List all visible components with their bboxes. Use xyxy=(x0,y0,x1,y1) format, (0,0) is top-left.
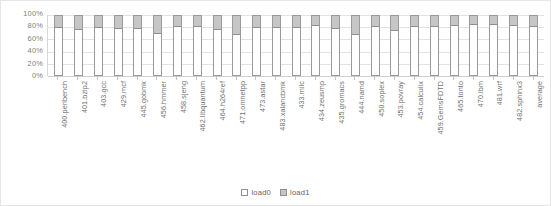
stacked-bar[interactable] xyxy=(292,15,301,76)
legend-swatch-load1 xyxy=(280,189,287,196)
stacked-bar[interactable] xyxy=(390,15,399,76)
stacked-bar[interactable] xyxy=(114,15,123,76)
stacked-bar[interactable] xyxy=(351,15,360,76)
x-tick-mark xyxy=(236,76,237,80)
bar-slot xyxy=(49,15,69,76)
stacked-bar[interactable] xyxy=(450,15,459,76)
legend-item[interactable]: load1 xyxy=(280,188,310,197)
bar-slot xyxy=(108,15,128,76)
x-label-slot: 433.milc xyxy=(286,81,306,163)
stacked-bar[interactable] xyxy=(529,15,538,76)
x-tick-mark xyxy=(434,76,435,80)
bar-segment-load0 xyxy=(312,26,319,75)
bar-segment-load1 xyxy=(451,16,458,26)
x-tick-mark xyxy=(77,76,78,80)
x-tick-mark xyxy=(354,76,355,80)
bar-segment-load0 xyxy=(154,34,161,75)
stacked-bar[interactable] xyxy=(94,15,103,76)
bar-slot xyxy=(187,15,207,76)
bar-slot xyxy=(128,15,148,76)
stacked-bar[interactable] xyxy=(74,15,83,76)
stacked-bar[interactable] xyxy=(469,15,478,76)
bar-segment-load1 xyxy=(411,16,418,27)
bar-segment-load0 xyxy=(115,29,122,75)
bar-segment-load0 xyxy=(391,31,398,75)
x-label-slot: 482.sphinx3 xyxy=(503,81,523,163)
bar-slot xyxy=(168,15,188,76)
x-tick-mark xyxy=(255,76,256,80)
stacked-bar[interactable] xyxy=(371,15,380,76)
stacked-bar[interactable] xyxy=(509,15,518,76)
bar-slot xyxy=(464,15,484,76)
x-label-slot: 470.lbm xyxy=(464,81,484,163)
x-label-slot: 435.gromacs xyxy=(325,81,345,163)
bar-segment-load0 xyxy=(490,25,497,75)
stacked-bar[interactable] xyxy=(430,15,439,76)
x-label-slot: 459.GemsFDTD xyxy=(424,81,444,163)
y-axis: 0%20%40%60%80%100% xyxy=(5,14,43,76)
x-tick-mark xyxy=(57,76,58,80)
stacked-bar[interactable] xyxy=(331,15,340,76)
stacked-bar[interactable] xyxy=(489,15,498,76)
legend-swatch-load0 xyxy=(241,189,248,196)
bar-segment-load0 xyxy=(253,28,260,75)
bar-segment-load1 xyxy=(510,16,517,26)
bar-segment-load0 xyxy=(451,26,458,75)
bar-segment-load1 xyxy=(273,16,280,28)
x-label-slot: 471.omnetpp xyxy=(226,81,246,163)
x-tick-label: average xyxy=(536,81,544,108)
x-tick-mark xyxy=(335,76,336,80)
bar-segment-load1 xyxy=(372,16,379,27)
x-tick-mark xyxy=(394,76,395,80)
bar-slot xyxy=(504,15,524,76)
stacked-bar[interactable] xyxy=(232,15,241,76)
x-label-slot: 465.tonto xyxy=(444,81,464,163)
bar-segment-load1 xyxy=(115,16,122,29)
x-tick-mark xyxy=(315,76,316,80)
x-label-slot: 453.povray xyxy=(385,81,405,163)
stacked-bar[interactable] xyxy=(410,15,419,76)
bar-segment-load0 xyxy=(332,29,339,75)
stacked-bar[interactable] xyxy=(54,15,63,76)
bar-slot xyxy=(326,15,346,76)
x-label-slot: 400.perlbench xyxy=(48,81,68,163)
stacked-bar[interactable] xyxy=(272,15,281,76)
stacked-bar[interactable] xyxy=(193,15,202,76)
bar-segment-load0 xyxy=(233,35,240,75)
bar-segment-load1 xyxy=(233,16,240,35)
y-tick-label: 0% xyxy=(32,72,43,80)
x-label-slot: 481.wrf xyxy=(484,81,504,163)
bar-slot xyxy=(89,15,109,76)
bar-segment-load1 xyxy=(154,16,161,34)
x-label-slot: 454.calculix xyxy=(404,81,424,163)
x-label-slot: 473.astar xyxy=(246,81,266,163)
x-label-slot: 456.hmmer xyxy=(147,81,167,163)
x-label-slot: 401.bzip2 xyxy=(68,81,88,163)
x-label-slot: 434.zeusmp xyxy=(305,81,325,163)
x-label-slot: 464.h264ref xyxy=(206,81,226,163)
plot-wrapper: 0%20%40%60%80%100% 400.perlbench401.bzip… xyxy=(1,1,551,169)
plot-area xyxy=(47,15,544,76)
legend-item[interactable]: load0 xyxy=(241,188,271,197)
bar-segment-load1 xyxy=(332,16,339,29)
bar-segment-load1 xyxy=(530,16,537,27)
stacked-bar[interactable] xyxy=(133,15,142,76)
bar-slot xyxy=(484,15,504,76)
legend-label: load0 xyxy=(251,188,271,197)
bar-segment-load0 xyxy=(194,27,201,75)
bar-slot xyxy=(385,15,405,76)
bar-segment-load0 xyxy=(470,25,477,75)
x-tick-mark xyxy=(533,76,534,80)
bar-segment-load1 xyxy=(95,16,102,28)
stacked-bar[interactable] xyxy=(153,15,162,76)
stacked-bar[interactable] xyxy=(173,15,182,76)
bar-segment-load0 xyxy=(510,26,517,75)
bar-segment-load0 xyxy=(214,30,221,75)
bar-slot xyxy=(523,15,543,76)
bar-segment-load0 xyxy=(293,28,300,75)
stacked-bar[interactable] xyxy=(213,15,222,76)
x-tick-mark xyxy=(196,76,197,80)
stacked-bar[interactable] xyxy=(252,15,261,76)
stacked-bar[interactable] xyxy=(311,15,320,76)
y-tick-label: 20% xyxy=(28,60,43,68)
